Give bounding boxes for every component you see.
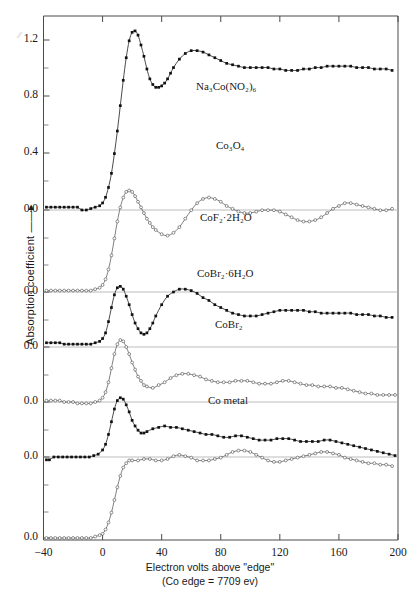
data-point-open — [45, 289, 48, 292]
data-point-filled — [113, 293, 116, 296]
data-point-open — [63, 401, 66, 404]
data-point-open — [252, 381, 255, 384]
data-point-filled — [172, 291, 175, 294]
x-tick-label: 160 — [319, 546, 359, 558]
data-point-open — [137, 375, 140, 378]
data-point-open — [261, 209, 264, 212]
data-point-open — [137, 200, 140, 203]
series-cobr2 — [45, 396, 396, 461]
data-point-filled — [237, 65, 240, 68]
data-point-open — [166, 234, 169, 237]
data-point-open — [67, 289, 70, 292]
data-point-open — [302, 220, 305, 223]
data-point-open — [385, 463, 388, 466]
series-label-cometal: Co metal — [208, 394, 248, 406]
data-point-open — [160, 233, 163, 236]
data-point-filled — [89, 343, 92, 346]
data-point-filled — [70, 456, 73, 459]
data-point-filled — [94, 206, 97, 209]
data-point-filled — [134, 322, 137, 325]
data-point-filled — [213, 56, 216, 59]
data-point-filled — [122, 288, 125, 291]
data-point-filled — [116, 286, 119, 289]
data-point-open — [172, 455, 175, 458]
data-point-open — [329, 385, 332, 388]
data-point-filled — [160, 303, 163, 306]
data-point-open — [101, 532, 104, 535]
data-point-filled — [284, 69, 287, 72]
data-point-open — [335, 386, 338, 389]
data-point-filled — [219, 306, 222, 309]
data-point-open — [116, 486, 119, 489]
data-point-open — [85, 537, 88, 540]
series-label-na3co: Na₃Co(NO₂)₆ — [196, 80, 256, 92]
data-point-filled — [190, 49, 193, 52]
data-point-open — [145, 217, 148, 220]
data-point-filled — [264, 439, 267, 442]
data-point-open — [94, 401, 97, 404]
x-tick-label: 0 — [83, 546, 123, 558]
y-tick-label: 0.8 — [8, 88, 38, 100]
data-point-filled — [391, 316, 394, 319]
data-point-filled — [119, 396, 122, 399]
data-point-open — [320, 451, 323, 454]
data-point-filled — [281, 437, 284, 440]
data-point-filled — [104, 332, 107, 335]
data-point-filled — [140, 44, 143, 47]
data-point-filled — [94, 341, 97, 344]
data-point-filled — [302, 68, 305, 71]
data-point-open — [264, 382, 267, 385]
data-point-filled — [305, 440, 308, 443]
data-point-filled — [252, 437, 255, 440]
data-point-open — [243, 449, 246, 452]
data-point-filled — [211, 433, 214, 436]
data-point-open — [394, 394, 397, 397]
data-point-filled — [225, 309, 228, 312]
data-point-filled — [76, 343, 79, 346]
data-point-filled — [278, 68, 281, 71]
data-point-filled — [323, 439, 326, 442]
data-point-open — [119, 475, 122, 478]
data-point-filled — [157, 426, 160, 429]
data-point-filled — [219, 59, 222, 62]
data-point-open — [379, 463, 382, 466]
data-point-filled — [261, 313, 264, 316]
data-point-open — [113, 498, 116, 501]
data-point-filled — [343, 65, 346, 68]
series-na3co-no2-6 — [45, 30, 393, 212]
data-point-open — [76, 402, 79, 405]
data-point-filled — [352, 444, 355, 447]
data-point-filled — [66, 456, 69, 459]
data-point-filled — [104, 443, 107, 446]
data-point-filled — [143, 333, 146, 336]
data-point-open — [98, 534, 101, 537]
data-point-filled — [128, 303, 131, 306]
data-point-open — [63, 537, 66, 540]
data-point-filled — [222, 436, 225, 439]
data-point-filled — [140, 432, 143, 435]
data-point-filled — [110, 172, 113, 175]
data-point-open — [54, 399, 57, 402]
data-point-filled — [382, 451, 385, 454]
data-point-open — [80, 289, 83, 292]
data-point-filled — [240, 435, 243, 438]
data-point-open — [213, 197, 216, 200]
y-tick-label: 0.0 — [8, 339, 38, 351]
data-point-open — [67, 401, 70, 404]
data-point-filled — [113, 408, 116, 411]
data-point-filled — [302, 309, 305, 312]
data-point-filled — [367, 313, 370, 316]
y-tick-label: 1.2 — [8, 32, 38, 44]
data-point-filled — [320, 312, 323, 315]
data-point-filled — [255, 315, 258, 318]
data-point-filled — [181, 427, 184, 430]
data-point-open — [45, 537, 48, 540]
data-point-filled — [137, 34, 140, 37]
series-co-metal — [45, 449, 394, 539]
data-point-filled — [113, 152, 116, 155]
data-point-filled — [208, 299, 211, 302]
data-point-open — [222, 381, 225, 384]
data-point-filled — [125, 403, 128, 406]
data-point-open — [391, 465, 394, 468]
data-point-open — [98, 399, 101, 402]
